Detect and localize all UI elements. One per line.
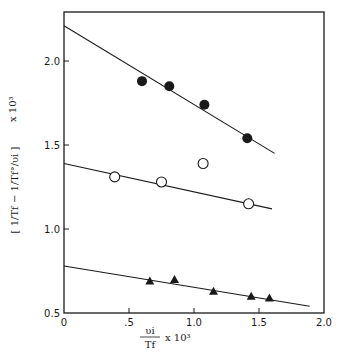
x-label-suffix: x 10³ [165, 332, 191, 343]
data-markers [110, 76, 274, 301]
x-label-numerator: υi [145, 325, 154, 336]
fit-lines [64, 26, 310, 307]
filled-circle-marker [199, 100, 209, 110]
open-circle-marker [198, 158, 208, 168]
y-label-suffix: x 10³ [7, 96, 18, 122]
y-tick-label: 0.5 [44, 308, 60, 319]
open-circle-marker [110, 172, 120, 182]
filled-circle-marker [137, 76, 147, 86]
filled-circle-marker [164, 81, 174, 91]
plot-frame [64, 12, 324, 313]
triangle-marker [170, 275, 179, 283]
y-tick-label: 1.0 [44, 224, 60, 235]
x-tick-label: 1.0 [186, 317, 202, 328]
open-circle-marker [157, 177, 167, 187]
scatter-chart: 0.51.01.52.0 0.51.01.52.0 υi Tf x 10³ [ … [0, 0, 340, 363]
y-label-text: [ 1/Tf − 1/Tf°/υi ] [9, 147, 20, 234]
y-axis-ticks: 0.51.01.52.0 [44, 56, 69, 319]
x-tick-label: 0 [61, 317, 67, 328]
open-circle-marker [244, 199, 254, 209]
fit-line [64, 163, 272, 208]
x-axis-label: υi Tf x 10³ [140, 325, 191, 350]
y-tick-label: 2.0 [44, 56, 60, 67]
filled-circle-marker [242, 133, 252, 143]
x-tick-label: .5 [124, 317, 134, 328]
triangle-marker [265, 293, 274, 301]
y-axis-label: [ 1/Tf − 1/Tf°/υi ] x 10³ [7, 96, 20, 233]
y-tick-label: 1.5 [44, 140, 60, 151]
x-tick-label: 1.5 [251, 317, 267, 328]
x-label-denominator: Tf [145, 339, 157, 350]
x-tick-label: 2.0 [316, 317, 332, 328]
x-axis-ticks: 0.51.01.52.0 [61, 308, 332, 328]
